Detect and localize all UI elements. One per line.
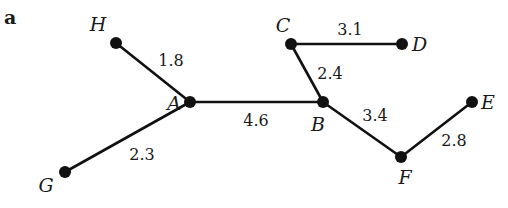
node-e <box>466 96 478 108</box>
node-label-a: A <box>165 92 181 114</box>
edge-weight-label: 3.1 <box>337 20 362 39</box>
node-label-e: E <box>480 91 495 113</box>
node-a <box>184 96 196 108</box>
node-label-b: B <box>310 113 325 135</box>
edge-weight-label: 1.8 <box>158 51 183 70</box>
graph-canvas: 1.82.34.62.43.13.42.8 ABCDEFGH <box>0 0 508 208</box>
node-label-g: G <box>38 174 53 196</box>
node-labels-layer: ABCDEFGH <box>38 13 495 196</box>
nodes-layer <box>59 37 478 178</box>
node-label-c: C <box>276 14 291 36</box>
edge-weight-label: 2.3 <box>129 145 154 164</box>
node-h <box>110 37 122 49</box>
node-f <box>395 151 407 163</box>
node-c <box>285 38 297 50</box>
node-label-f: F <box>397 166 412 188</box>
edge-weight-label: 2.4 <box>317 64 342 83</box>
edges-layer <box>65 43 472 172</box>
node-g <box>59 166 71 178</box>
node-d <box>396 38 408 50</box>
node-b <box>317 96 329 108</box>
tree-diagram-figure: a 1.82.34.62.43.13.42.8 ABCDEFGH <box>0 0 508 208</box>
edge-weight-label: 4.6 <box>243 111 268 130</box>
edge-weight-label: 2.8 <box>441 131 466 150</box>
node-label-h: H <box>89 13 107 35</box>
node-label-d: D <box>411 33 427 55</box>
edge-weight-label: 3.4 <box>362 106 387 125</box>
